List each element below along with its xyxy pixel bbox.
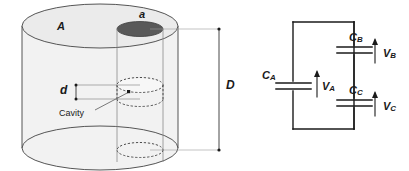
capacitor-a-label: CA bbox=[262, 70, 276, 82]
gap-tick-bottom bbox=[75, 98, 78, 101]
height-tick-top bbox=[217, 27, 220, 30]
gap-tick-top bbox=[75, 84, 78, 87]
height-label: D bbox=[226, 79, 235, 91]
capacitor-a-subscript: A bbox=[270, 73, 276, 82]
voltage-arrow-c bbox=[372, 91, 378, 116]
figure-root: A a d Cavity D CA VA CB VB CC VC bbox=[0, 0, 409, 171]
area-label: A bbox=[57, 21, 65, 32]
voltage-c-label: VC bbox=[383, 101, 396, 113]
gap-label: d bbox=[60, 84, 67, 96]
capacitor-c-symbol: C bbox=[349, 84, 357, 96]
cavity-label: Cavity bbox=[59, 109, 84, 118]
capacitor-b-label: CB bbox=[349, 32, 363, 44]
voltage-arrow-b bbox=[372, 38, 378, 63]
voltage-arrow-c-head bbox=[372, 91, 378, 98]
voltage-b-subscript: B bbox=[390, 51, 396, 60]
voltage-arrow-b-head bbox=[372, 38, 378, 45]
voltage-c-subscript: C bbox=[390, 104, 396, 113]
hole-area-label: a bbox=[139, 9, 145, 20]
cylinder-group bbox=[22, 4, 221, 170]
voltage-a-subscript: A bbox=[329, 84, 335, 93]
voltage-a-label: VA bbox=[322, 81, 335, 93]
capacitor-c-label: CC bbox=[349, 85, 363, 97]
capacitor-a-symbol: C bbox=[262, 69, 270, 81]
voltage-arrow-a-head bbox=[314, 70, 320, 77]
voltage-b-label: VB bbox=[383, 48, 396, 60]
height-tick-bottom bbox=[217, 148, 220, 151]
cavity-leader-dot bbox=[127, 90, 130, 93]
capacitor-b-subscript: B bbox=[357, 35, 363, 44]
capacitor-b-symbol: C bbox=[349, 31, 357, 43]
capacitor-c-subscript: C bbox=[357, 88, 363, 97]
voltage-arrow-a bbox=[314, 70, 320, 97]
